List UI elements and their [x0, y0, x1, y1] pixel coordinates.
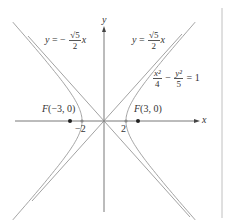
y-axis-label: y	[102, 15, 106, 25]
x-axis-label: x	[202, 115, 206, 125]
x-axis-arrow-icon	[194, 119, 200, 123]
hyperbola-diagram: y x −2 2 FF(−3, 0)(−3, 0) FF(3, 0)(3, 0)…	[0, 0, 226, 222]
asymptote-positive-label: y = √52x	[132, 30, 165, 51]
tick-label-neg2: −2	[75, 124, 86, 134]
focus-left-label: FF(−3, 0)(−3, 0)	[42, 104, 75, 114]
tick-label-pos2: 2	[121, 124, 126, 134]
hyperbola-equation: x²4 − y²5 = 1	[152, 68, 200, 89]
asymptote-negative	[28, 36, 190, 217]
diagram-canvas	[0, 0, 226, 222]
asymptote-positive	[32, 34, 182, 201]
y-axis-arrow-icon	[102, 26, 106, 32]
focus-right-point	[136, 119, 140, 123]
asymptote-negative-label: y = − √52x	[45, 30, 86, 51]
focus-right-label: FF(3, 0)(3, 0)	[134, 104, 162, 114]
focus-left-point	[68, 119, 72, 123]
